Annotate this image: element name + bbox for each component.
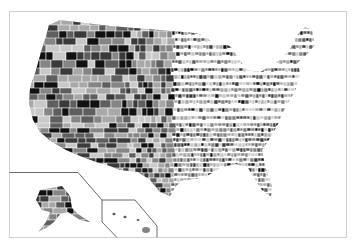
contiguous-us-counties <box>26 18 323 205</box>
hawaii-counties <box>112 213 150 233</box>
county-choropleth-map <box>0 0 355 245</box>
map-canvas <box>0 0 355 245</box>
alaska-counties <box>34 184 105 238</box>
